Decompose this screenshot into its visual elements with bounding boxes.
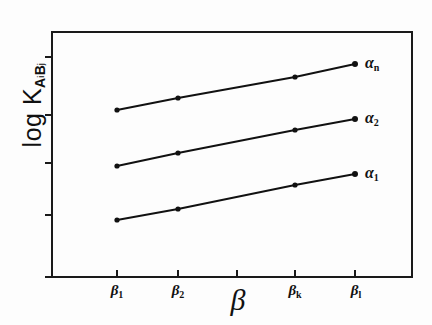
data-point (175, 150, 180, 155)
data-point (352, 61, 358, 67)
y-axis-ticks (45, 57, 52, 215)
data-point (292, 182, 297, 187)
series-alpha-1 (114, 171, 358, 223)
data-point (175, 95, 180, 100)
data-point (175, 206, 180, 211)
chart-figure: log KAiBj β β1 β2 βk βl αn α2 α1 (0, 0, 432, 325)
data-point (352, 116, 358, 122)
series-alpha-n (114, 61, 358, 113)
data-point (114, 163, 119, 168)
plot-frame (52, 32, 412, 277)
data-point (114, 217, 119, 222)
series-line (117, 64, 355, 110)
data-point (114, 107, 119, 112)
x-axis-ticks (117, 270, 355, 277)
series-alpha-2 (114, 116, 358, 169)
data-point (292, 127, 297, 132)
series-line (117, 174, 355, 220)
series-line (117, 119, 355, 166)
chart-plot-area (0, 0, 432, 325)
data-point (292, 74, 297, 79)
data-point (352, 171, 358, 177)
